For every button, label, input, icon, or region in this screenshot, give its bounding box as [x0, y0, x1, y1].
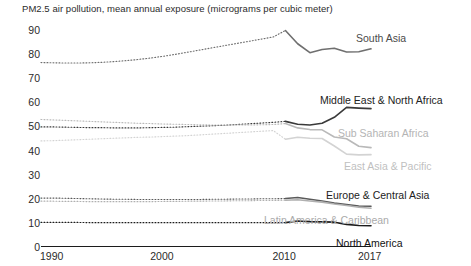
series-label-sub-saharan-africa: Sub Saharan Africa: [338, 128, 428, 139]
series-solid-middle-east-north-africa: [285, 107, 371, 125]
series-dotted-east-asia-pacific: [41, 131, 285, 141]
series-dotted-europe-central-asia: [41, 198, 285, 199]
x-tick-1990: 1990: [40, 250, 63, 262]
series-solid-latin-america-caribbean: [285, 200, 371, 208]
x-tick-2000: 2000: [150, 250, 173, 262]
series-label-south-asia: South Asia: [356, 33, 406, 44]
series-label-europe-central-asia: Europe & Central Asia: [326, 190, 429, 201]
x-tick-2010: 2010: [272, 250, 295, 262]
pm25-line-chart: PM2.5 air pollution, mean annual exposur…: [0, 0, 471, 266]
series-dotted-south-asia: [41, 30, 285, 63]
series-label-north-america: North America: [336, 238, 403, 249]
x-axis-line: [41, 246, 371, 247]
series-dotted-latin-america-caribbean: [41, 200, 285, 201]
x-tick-2017: 2017: [358, 250, 381, 262]
series-label-latin-america-caribbean: Latin America & Caribbean: [264, 215, 389, 226]
series-label-middle-east-north-africa: Middle East & North Africa: [320, 95, 443, 106]
series-label-east-asia-pacific: East Asia & Pacific: [344, 161, 432, 172]
